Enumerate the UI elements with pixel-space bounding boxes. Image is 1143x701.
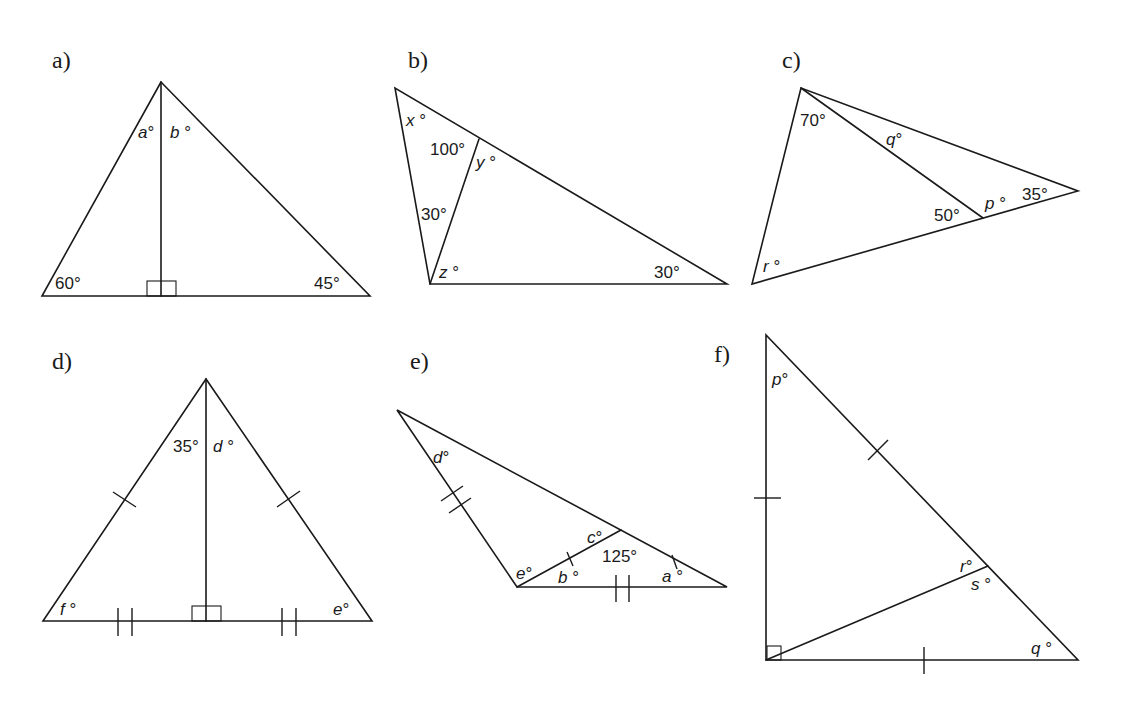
diagram-c: c) 70° q° 50° p ° 35° r ° — [752, 47, 1078, 284]
angle-e-c: c° — [587, 528, 602, 547]
angle-e-e: e° — [516, 564, 532, 583]
angle-a-b: b ° — [170, 123, 191, 142]
tick-f-hypotenuse — [868, 440, 888, 460]
angle-c-q: q° — [886, 130, 902, 149]
diagram-b-label: b) — [408, 47, 428, 73]
tick-d-right-side — [277, 491, 300, 507]
angle-b-30-left: 30° — [421, 205, 447, 224]
diagram-e-label: e) — [410, 348, 429, 374]
angle-c-r: r ° — [763, 257, 780, 276]
angle-d-e: e° — [333, 600, 349, 619]
diagram-c-label: c) — [782, 47, 801, 73]
diagram-d: d) 35° d ° f ° e° — [43, 348, 372, 636]
angle-f-s: s ° — [971, 575, 991, 594]
diagram-e: e) d° c° 125° e° b ° a ° — [397, 348, 727, 602]
angle-b-30-right: 30° — [654, 263, 680, 282]
angle-f-p: p° — [771, 370, 788, 389]
tick-e-left-1 — [441, 486, 463, 501]
diagram-a: a) a° b ° 60° 45° — [42, 47, 370, 296]
angle-d-f: f ° — [60, 600, 76, 619]
diagram-f-label: f) — [714, 341, 730, 367]
triangle-b — [395, 88, 727, 284]
angle-c-35: 35° — [1022, 185, 1048, 204]
diagram-f: f) p° r° s ° q ° — [714, 335, 1078, 674]
triangle-d — [43, 379, 372, 621]
angle-b-y: y ° — [475, 153, 496, 172]
angle-c-p: p ° — [984, 194, 1006, 213]
triangle-f — [766, 335, 1078, 660]
angle-b-100: 100° — [430, 140, 465, 159]
cevian-f — [766, 566, 988, 660]
angle-e-b: b ° — [558, 568, 579, 587]
angle-a-left: 60° — [55, 274, 81, 293]
angle-e-125: 125° — [602, 547, 637, 566]
angle-c-50: 50° — [934, 206, 960, 225]
diagram-a-label: a) — [52, 47, 71, 73]
angle-e-d: d° — [433, 448, 449, 467]
angle-a-right: 45° — [314, 274, 340, 293]
diagram-b: b) x ° 100° y ° 30° z ° 30° — [395, 47, 727, 284]
angle-e-a: a ° — [662, 567, 683, 586]
angle-c-70: 70° — [800, 111, 826, 130]
angle-f-r: r° — [960, 557, 972, 576]
tick-e-left-2 — [449, 498, 471, 513]
angle-b-x: x ° — [405, 111, 426, 130]
angle-d-35: 35° — [173, 437, 199, 456]
angle-f-q: q ° — [1031, 639, 1052, 658]
diagram-canvas: a) a° b ° 60° 45° b) x ° 100° y ° 30° z … — [0, 0, 1143, 701]
triangle-a — [42, 82, 370, 296]
angle-d-d: d ° — [213, 437, 234, 456]
angle-a-a: a° — [138, 123, 154, 142]
cevian-c — [801, 88, 983, 218]
triangle-e — [397, 410, 727, 587]
angle-b-z: z ° — [438, 263, 459, 282]
tick-d-left-side — [113, 492, 136, 507]
diagram-d-label: d) — [52, 348, 72, 374]
